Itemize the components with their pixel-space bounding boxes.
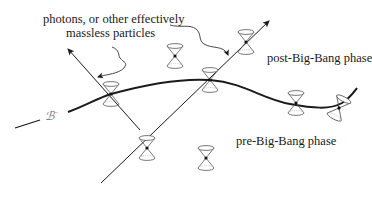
light-cone-icon [198, 146, 214, 171]
light-cone-icon [103, 82, 119, 107]
post-big-bang-label: post-Big-Bang phase [267, 52, 372, 65]
label-pointer-left [98, 47, 126, 77]
light-cone-icon [238, 30, 254, 55]
hypersurface-sup: − [54, 109, 59, 117]
light-cone-icon [167, 44, 183, 69]
label-pointer-right [170, 25, 228, 55]
photons-label-line2: massless particles [66, 27, 155, 40]
light-cone-icon [139, 136, 155, 161]
hypersurface-curve [15, 80, 357, 128]
pre-big-bang-label: pre-Big-Bang phase [236, 135, 336, 148]
hypersurface-symbol: ℬ [45, 109, 54, 123]
light-cone-icon [288, 91, 304, 116]
hypersurface-label: ℬ− [45, 110, 59, 122]
photons-label-line1: photons, or other effectively [43, 13, 184, 26]
